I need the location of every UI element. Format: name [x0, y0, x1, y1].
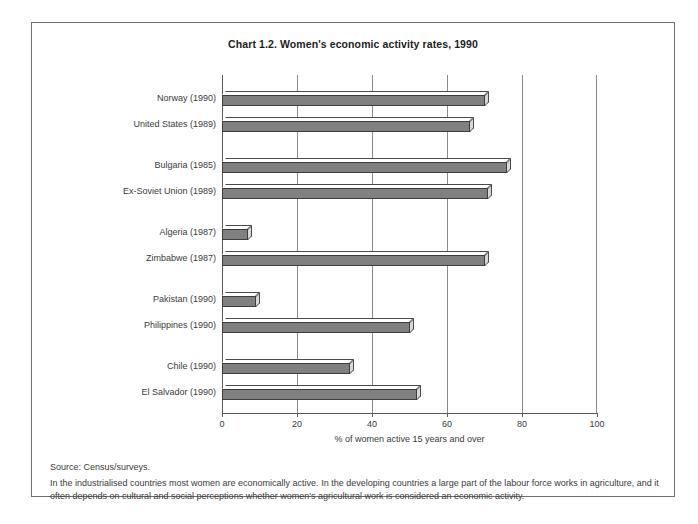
- tick-mark-80: [522, 413, 523, 417]
- bar-front-face: [222, 255, 485, 266]
- bar-side-face: [410, 318, 414, 333]
- tick-label-80: 80: [517, 419, 527, 429]
- bar-front-face: [222, 296, 256, 307]
- bar-front-face: [222, 389, 417, 400]
- bar-side-face: [248, 225, 252, 240]
- tick-mark-100: [597, 413, 598, 417]
- tick-label-40: 40: [367, 419, 377, 429]
- chart-title: Chart 1.2. Women's economic activity rat…: [32, 38, 674, 50]
- bar-chile-1990: [222, 359, 355, 374]
- bar-front-face: [222, 162, 507, 173]
- bar-side-face: [485, 91, 489, 106]
- bar-side-face: [417, 385, 421, 400]
- bar-united-states-1989: [222, 117, 475, 132]
- bar-ex-soviet-union-1989: [222, 184, 493, 199]
- category-label-7: Philippines (1990): [144, 320, 216, 330]
- bar-bulgaria-1985: [222, 158, 512, 173]
- bar-side-face: [485, 251, 489, 266]
- gridline-80: [522, 75, 523, 413]
- tick-label-100: 100: [589, 419, 604, 429]
- category-label-1: United States (1989): [133, 119, 216, 129]
- tick-mark-60: [447, 413, 448, 417]
- bar-side-face: [488, 184, 492, 199]
- category-label-0: Norway (1990): [157, 93, 216, 103]
- bar-norway-1990: [222, 91, 490, 106]
- tick-label-20: 20: [292, 419, 302, 429]
- category-label-2: Bulgaria (1985): [154, 160, 216, 170]
- bar-philippines-1990: [222, 318, 415, 333]
- tick-label-0: 0: [219, 419, 224, 429]
- bar-side-face: [470, 117, 474, 132]
- tick-mark-0: [222, 413, 223, 417]
- bar-el-salvador-1990: [222, 385, 422, 400]
- bar-side-face: [350, 359, 354, 374]
- source-note: Source: Census/surveys.: [50, 461, 660, 475]
- plot-area: [222, 75, 597, 413]
- bar-front-face: [222, 322, 410, 333]
- plot-right-border: [596, 75, 597, 413]
- explanatory-note: In the industrialised countries most wom…: [50, 477, 660, 504]
- chart-page-frame: Chart 1.2. Women's economic activity rat…: [31, 22, 675, 497]
- category-label-4: Algeria (1987): [159, 227, 216, 237]
- bar-pakistan-1990: [222, 292, 261, 307]
- bar-side-face: [256, 292, 260, 307]
- bar-front-face: [222, 229, 248, 240]
- tick-mark-20: [297, 413, 298, 417]
- category-axis-labels: Norway (1990)United States (1989)Bulgari…: [32, 75, 216, 413]
- value-axis-title: % of women active 15 years and over: [222, 434, 597, 444]
- tick-mark-40: [372, 413, 373, 417]
- bar-side-face: [507, 158, 511, 173]
- category-label-3: Ex-Soviet Union (1989): [123, 186, 216, 196]
- category-label-9: El Salvador (1990): [141, 387, 216, 397]
- category-label-6: Pakistan (1990): [153, 294, 216, 304]
- chart-footer: Source: Census/surveys. In the industria…: [50, 461, 660, 504]
- tick-label-60: 60: [442, 419, 452, 429]
- bar-front-face: [222, 121, 470, 132]
- bar-front-face: [222, 95, 485, 106]
- bar-front-face: [222, 363, 350, 374]
- category-label-8: Chile (1990): [167, 361, 216, 371]
- category-label-5: Zimbabwe (1987): [146, 253, 216, 263]
- bar-zimbabwe-1987: [222, 251, 490, 266]
- value-axis-line: [222, 413, 598, 414]
- bar-front-face: [222, 188, 488, 199]
- bar-algeria-1987: [222, 225, 253, 240]
